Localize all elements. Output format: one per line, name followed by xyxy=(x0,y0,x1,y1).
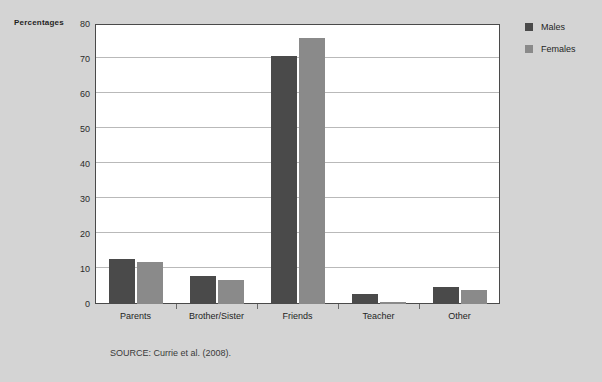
x-axis-tick xyxy=(419,304,420,309)
y-axis-tick-label: 30 xyxy=(56,194,90,204)
x-axis: ParentsBrother/SisterFriendsTeacherOther xyxy=(95,304,500,334)
gridline xyxy=(96,267,499,268)
chart-figure: Percentages 01020304050607080 ParentsBro… xyxy=(0,0,602,382)
x-axis-tick xyxy=(338,304,339,309)
legend-swatch-males-icon xyxy=(525,23,533,31)
source-note: SOURCE: Currie et al. (2008). xyxy=(110,348,231,358)
x-axis-tick xyxy=(257,304,258,309)
y-axis-tick-label: 50 xyxy=(56,124,90,134)
x-axis-tick-label: Teacher xyxy=(362,311,394,321)
gridline xyxy=(96,197,499,198)
gridline xyxy=(96,92,499,93)
x-axis-tick-label: Brother/Sister xyxy=(189,311,244,321)
y-axis-tick-label: 0 xyxy=(56,299,90,309)
y-axis-tick-label: 60 xyxy=(56,89,90,99)
plot-area xyxy=(95,24,500,304)
chart-legend: Males Females xyxy=(525,22,595,66)
y-axis-tick-label: 70 xyxy=(56,54,90,64)
legend-item-females: Females xyxy=(525,44,595,54)
x-axis-tick xyxy=(176,304,177,309)
x-axis-tick-label: Friends xyxy=(282,311,312,321)
y-axis-tick-label: 20 xyxy=(56,229,90,239)
y-axis-tick-label: 80 xyxy=(56,19,90,29)
y-axis-tick-labels: 01020304050607080 xyxy=(50,24,90,304)
y-axis-tick-label: 10 xyxy=(56,264,90,274)
x-axis-tick-label: Parents xyxy=(120,311,151,321)
legend-swatch-females-icon xyxy=(525,45,533,53)
x-axis-tick-label: Other xyxy=(448,311,471,321)
gridline xyxy=(96,162,499,163)
gridline xyxy=(96,232,499,233)
legend-label-males: Males xyxy=(541,22,565,32)
gridline xyxy=(96,127,499,128)
legend-label-females: Females xyxy=(541,44,576,54)
gridline xyxy=(96,57,499,58)
y-axis-tick-label: 40 xyxy=(56,159,90,169)
legend-item-males: Males xyxy=(525,22,595,32)
